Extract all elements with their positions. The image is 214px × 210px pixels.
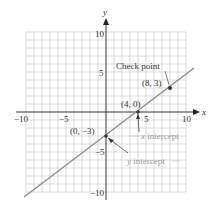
y-tick-neg5: −5 — [95, 147, 105, 157]
intercept-text: intercept — [145, 131, 179, 141]
label-check-point: (8, 3) — [142, 78, 162, 88]
label-y-intercept-point: (0, −3) — [70, 126, 95, 136]
x-intercept-arrow-icon — [136, 114, 140, 119]
y-tick-10: 10 — [95, 29, 105, 39]
y-axis-label: y — [102, 7, 107, 17]
intercept-text: intercept — [131, 156, 165, 166]
annotation-y-intercept: y intercept — [126, 156, 165, 166]
x-tick-5: 5 — [144, 114, 149, 124]
point-x-intercept — [136, 110, 140, 114]
coordinate-plane: x y −10 −5 5 10 10 5 −5 −10 (0, −3) (4, … — [0, 0, 214, 210]
x-tick-neg5: −5 — [59, 114, 69, 124]
axes — [16, 23, 195, 200]
y-axis-arrow-icon — [103, 18, 109, 25]
y-tick-neg10: −10 — [90, 188, 105, 198]
check-point-pointer — [165, 71, 169, 85]
x-axis-arrow-icon — [193, 109, 200, 115]
x-axis-label: x — [201, 107, 206, 117]
annotation-check-point: Check point — [116, 61, 160, 71]
x-tick-10: 10 — [182, 114, 192, 124]
annotation-x-intercept: x intercept — [140, 131, 179, 141]
label-x-intercept-point: (4, 0) — [121, 99, 141, 109]
x-tick-neg10: −10 — [14, 114, 29, 124]
point-check — [168, 86, 172, 90]
y-tick-5: 5 — [99, 68, 104, 78]
point-y-intercept — [104, 134, 108, 138]
